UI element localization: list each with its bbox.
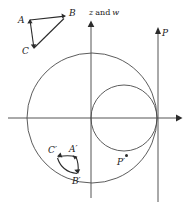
y-axis-label-w: w [112,8,119,17]
label-P: P [161,28,169,38]
segment-CB [34,19,64,49]
label-A-prime: A′ [68,144,78,154]
label-C: C [22,46,29,56]
label-A: A [17,15,25,25]
point-P-prime-marker [125,154,128,157]
y-axis-label: zandw [88,8,119,17]
x-axis-arrowhead-icon [176,115,183,122]
label-P-prime: P′ [116,157,125,167]
arrowhead-B-icon [62,14,67,19]
conformal-mapping-figure: zandw P A B C C′ A′ B′ P′ [0,0,184,205]
label-B: B [68,8,76,18]
arrowhead-C-prime-icon [57,153,62,158]
segment-AB [30,16,63,20]
y-axis-arrowhead-icon [88,21,95,28]
triangle-ABC-prime-group [57,153,80,175]
line-P-group [155,27,161,202]
line-P-arrowhead-icon [155,27,161,34]
triangle-ABC-group [27,14,66,49]
label-B-prime: B′ [71,176,81,186]
figure-canvas: zandw P A B C C′ A′ B′ P′ [0,0,184,205]
y-axis-label-z: z [88,8,94,17]
y-axis-label-and: and [95,8,110,17]
segment-C-prime-B-prime [58,158,78,174]
label-C-prime: C′ [48,145,57,155]
segment-AC [30,20,34,45]
